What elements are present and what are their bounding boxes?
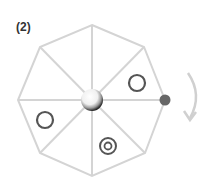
- rotation-arrow-icon: [184, 73, 196, 120]
- dot-right: [160, 95, 171, 106]
- circle-upper-right: [129, 75, 145, 91]
- center-sphere: [81, 89, 103, 111]
- octagon-diagram: [0, 0, 212, 189]
- target-icon-bottom: [100, 138, 116, 154]
- circle-left: [37, 112, 53, 128]
